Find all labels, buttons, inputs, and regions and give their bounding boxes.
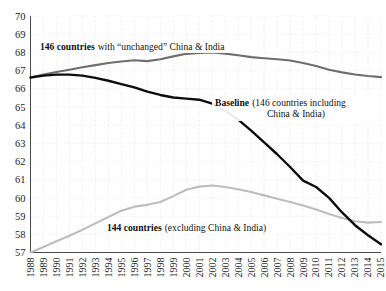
y-tick-label: 62 [15, 156, 26, 167]
x-tick-label: 2004 [233, 258, 244, 278]
x-tick-label: 2011 [323, 258, 334, 278]
y-tick-label: 61 [15, 174, 26, 185]
x-tick-label: 1994 [103, 258, 114, 278]
x-tick-label: 1990 [51, 258, 62, 278]
y-tick-label: 58 [15, 229, 26, 240]
annotation-excluding-regular: (excluding China & India) [165, 222, 267, 234]
x-tick-label: 2001 [194, 258, 205, 278]
series-line-0 [31, 53, 382, 78]
y-tick-label: 59 [15, 211, 26, 222]
annotation-excluding-text: 144 countries(excluding China & India) [107, 222, 266, 234]
y-tick-label: 65 [15, 102, 26, 113]
y-tick-label: 57 [15, 247, 26, 258]
x-tick-label: 1991 [64, 258, 75, 278]
annotation-unchanged-text: 146 countrieswith “unchanged” China & In… [40, 41, 225, 52]
x-tick-label: 2002 [207, 258, 218, 278]
y-tick-label: 69 [15, 29, 26, 40]
x-tick-label: 1989 [38, 258, 49, 278]
series-line-2 [31, 186, 382, 253]
x-tick-label: 2013 [349, 258, 360, 278]
y-tick-label: 70 [15, 11, 26, 22]
y-tick-label: 67 [15, 65, 26, 76]
x-tick-label: 1996 [129, 258, 140, 278]
x-tick-label: 2012 [336, 258, 347, 278]
x-tick-label: 2000 [181, 258, 192, 278]
x-tick-label: 2005 [246, 258, 257, 278]
x-tick-label: 2015 [375, 258, 386, 278]
x-tick-label: 1998 [155, 258, 166, 278]
x-tick-label: 2010 [310, 258, 321, 278]
annotation-unchanged-bold: 146 countries [40, 41, 95, 52]
x-tick-label: 1995 [116, 258, 127, 278]
annotation-unchanged: 146 countrieswith “unchanged” China & In… [37, 40, 255, 53]
x-tick-label: 1993 [90, 258, 101, 278]
annotation-excluding: 144 countries(excluding China & India) [104, 221, 294, 234]
x-tick-label: 2008 [285, 258, 296, 278]
line-chart: 5758596061626364656667686970 19881989199… [0, 0, 386, 291]
x-tick-label: 1997 [142, 258, 153, 278]
x-tick-label: 2003 [220, 258, 231, 278]
annotation-excluding-bold: 144 countries [107, 222, 162, 233]
y-tick-label: 64 [15, 120, 26, 131]
chart-container: 5758596061626364656667686970 19881989199… [0, 0, 386, 291]
x-axis-tick-labels: 1988198919901991199219931994199519961997… [25, 258, 386, 278]
annotation-baseline-line2: China & India) [267, 108, 325, 120]
annotation-baseline-bold: Baseline [215, 97, 250, 108]
y-tick-label: 68 [15, 47, 26, 58]
x-tick-label: 1992 [77, 258, 88, 278]
y-tick-label: 63 [15, 138, 26, 149]
x-tick-label: 1988 [25, 258, 36, 278]
annotation-unchanged-regular: with “unchanged” China & India [98, 41, 226, 52]
annotation-baseline: Baseline(146 countries including China &… [212, 96, 380, 121]
x-tick-label: 2009 [298, 258, 309, 278]
x-tick-label: 2014 [362, 258, 373, 278]
y-tick-label: 66 [15, 83, 26, 94]
y-tick-label: 60 [15, 193, 26, 204]
y-axis-tick-labels: 5758596061626364656667686970 [15, 11, 26, 259]
x-tick-label: 2007 [272, 258, 283, 278]
x-tick-label: 2006 [259, 258, 270, 278]
x-tick-label: 1999 [168, 258, 179, 278]
